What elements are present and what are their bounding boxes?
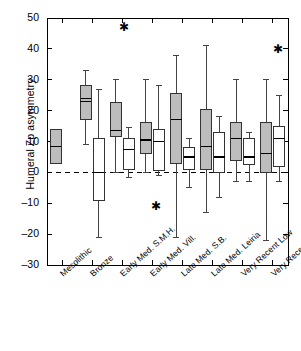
outlier-asterisk: ✱ <box>273 42 283 56</box>
y-tick-label: 10 <box>0 136 39 147</box>
y-tick-label: 40 <box>0 43 39 54</box>
boxplot-box <box>80 70 91 144</box>
boxplot-box <box>50 129 61 163</box>
outlier-asterisk: ✱ <box>151 199 161 213</box>
boxplot-box <box>93 89 104 237</box>
boxplot-box <box>184 138 195 187</box>
y-tick-label: –20 <box>0 228 39 239</box>
boxplot-box <box>140 80 151 173</box>
boxplot-box <box>244 132 255 181</box>
boxplot-box <box>214 117 225 197</box>
boxplot-box <box>274 95 285 181</box>
outlier-asterisk: ✱ <box>119 20 129 34</box>
boxplot-figure: Humeral Zp asymmetry –30–20–100102030405… <box>0 0 301 351</box>
y-tick-label: –30 <box>0 259 39 270</box>
y-tick-label: 30 <box>0 74 39 85</box>
y-tick-label: 50 <box>0 12 39 23</box>
y-tick-label: –10 <box>0 197 39 208</box>
plot-canvas: ✱✱✱ <box>0 0 301 351</box>
boxplot-box <box>231 80 242 182</box>
boxplot-box <box>171 55 182 237</box>
y-tick-label: 20 <box>0 105 39 116</box>
boxplot-box <box>123 128 134 177</box>
y-tick-label: 0 <box>0 166 39 177</box>
boxplot-box <box>201 46 212 213</box>
boxplot-box <box>153 86 164 176</box>
boxplot-box <box>110 80 121 173</box>
boxplot-box <box>261 80 272 241</box>
